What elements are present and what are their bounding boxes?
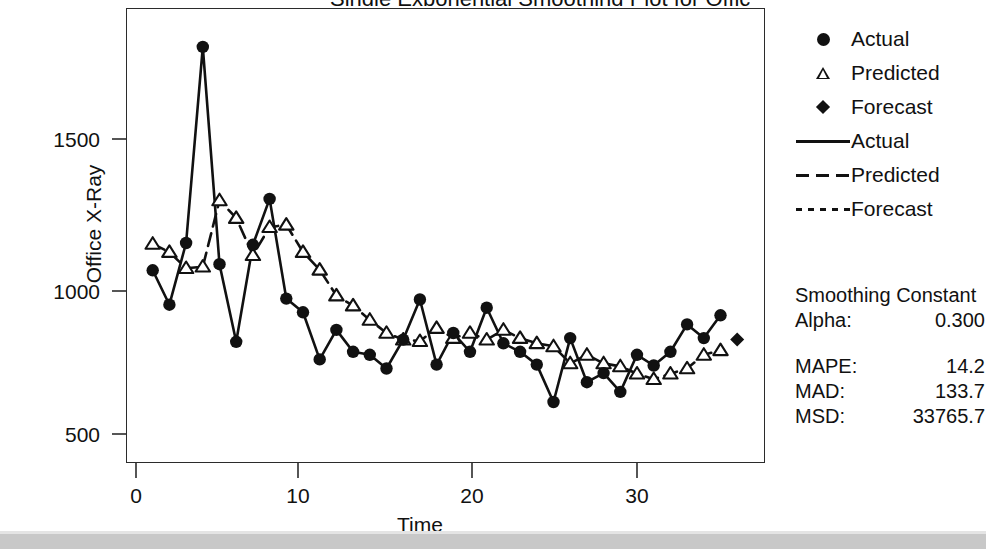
legend-label: Actual: [851, 129, 909, 153]
legend-item-forecast-marker: Forecast: [795, 90, 985, 124]
dashed-line-icon: [795, 174, 851, 177]
x-tick-20: 20: [452, 484, 492, 508]
y-tick-500: 500: [20, 423, 100, 447]
smoothing-constant-heading: Smoothing Constant: [795, 283, 985, 308]
alpha-label: Alpha:: [795, 308, 852, 333]
x-tick-30: 30: [617, 484, 657, 508]
legend-label: Predicted: [851, 61, 940, 85]
legend-label: Actual: [851, 27, 909, 51]
y-tick-1000: 1000: [20, 280, 100, 304]
forecast-series-markers: [730, 333, 744, 347]
msd-label: MSD:: [795, 404, 845, 429]
msd-value: 33765.7: [913, 404, 985, 429]
bottom-status-band: [0, 534, 986, 549]
exponential-smoothing-chart: Single Exponential Smoothing Plot for Of…: [0, 0, 986, 549]
legend-item-actual-line: Actual: [795, 124, 985, 158]
mape-value: 14.2: [946, 354, 985, 379]
plot-canvas: [126, 8, 765, 463]
x-tick-10: 10: [278, 484, 318, 508]
alpha-value: 0.300: [935, 308, 985, 333]
msd-row: MSD: 33765.7: [795, 404, 985, 429]
solid-line-icon: [795, 140, 851, 143]
statistics-panel: Smoothing Constant Alpha: 0.300 MAPE: 14…: [795, 283, 985, 429]
dotted-line-icon: [795, 208, 851, 211]
filled-diamond-marker-icon: [795, 102, 851, 112]
mape-row: MAPE: 14.2: [795, 354, 985, 379]
legend-label: Forecast: [851, 95, 933, 119]
legend-label: Forecast: [851, 197, 933, 221]
chart-legend: Actual Predicted Forecast Actual Predict…: [795, 22, 985, 226]
mad-row: MAD: 133.7: [795, 379, 985, 404]
legend-label: Predicted: [851, 163, 940, 187]
alpha-row: Alpha: 0.300: [795, 308, 985, 333]
mad-value: 133.7: [935, 379, 985, 404]
chart-title: Single Exponential Smoothing Plot for Of…: [330, 0, 750, 6]
actual-series-line: [153, 47, 721, 402]
legend-item-predicted-marker: Predicted: [795, 56, 985, 90]
legend-item-predicted-line: Predicted: [795, 158, 985, 192]
open-triangle-marker-icon: [795, 67, 851, 79]
legend-item-forecast-line: Forecast: [795, 192, 985, 226]
filled-circle-marker-icon: [795, 33, 851, 46]
stats-spacer: [795, 333, 985, 354]
mape-label: MAPE:: [795, 354, 857, 379]
actual-series-markers: [147, 41, 727, 408]
x-tick-0: 0: [116, 484, 156, 508]
plot-area: [126, 8, 765, 463]
legend-item-actual-marker: Actual: [795, 22, 985, 56]
mad-label: MAD:: [795, 379, 845, 404]
y-tick-1500: 1500: [20, 128, 100, 152]
